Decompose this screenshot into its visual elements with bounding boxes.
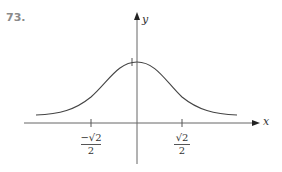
tick-label-neg-denominator: 2 <box>75 145 107 156</box>
x-axis-arrow-icon <box>252 120 260 126</box>
tick-label-neg: −√2 2 <box>75 132 107 156</box>
graph <box>0 0 282 172</box>
tick-label-pos: √2 2 <box>170 132 194 156</box>
tick-label-pos-denominator: 2 <box>170 145 194 156</box>
x-axis-label: x <box>263 115 269 128</box>
tick-label-pos-numerator: √2 <box>170 132 194 143</box>
tick-label-neg-numerator: −√2 <box>75 132 107 143</box>
y-axis-arrow-icon <box>134 12 140 20</box>
y-axis-label: y <box>142 13 148 26</box>
